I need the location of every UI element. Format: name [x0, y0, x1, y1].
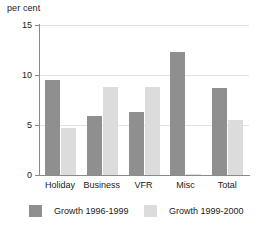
legend-label-series-1: Growth 1996-1999	[54, 206, 129, 216]
x-axis-label-holiday: Holiday	[45, 180, 75, 190]
bar	[87, 116, 102, 175]
x-axis-label-vfr: VFR	[135, 180, 153, 190]
legend-swatch-icon-series-1	[29, 205, 42, 217]
x-axis-label-business: Business	[84, 180, 121, 190]
y-axis-unit-label: per cent	[7, 3, 40, 13]
bar-chart: per cent 051015 HolidayBusinessVFRMiscTo…	[0, 0, 260, 236]
y-tick-label-0: 0	[0, 170, 32, 180]
bar	[228, 120, 243, 175]
legend-label-series-2: Growth 1999-2000	[169, 206, 244, 216]
bar	[103, 87, 118, 175]
x-axis-label-total: Total	[218, 180, 237, 190]
plot-area	[40, 25, 249, 175]
y-tick-label-5: 5	[0, 120, 32, 130]
bar	[186, 174, 201, 175]
bar	[45, 80, 60, 175]
legend: Growth 1996-1999 Growth 1999-2000	[0, 205, 260, 227]
legend-swatch-icon-series-2	[144, 205, 157, 217]
bar	[170, 52, 185, 175]
x-axis-label-misc: Misc	[176, 180, 195, 190]
y-tick-label-10: 10	[0, 70, 32, 80]
bar-group	[126, 25, 168, 175]
bar-group	[167, 25, 209, 175]
bar	[129, 112, 144, 175]
legend-item-growth-1999-2000: Growth 1999-2000	[144, 205, 244, 217]
bar-group	[209, 25, 251, 175]
y-tick-label-15: 15	[0, 20, 32, 30]
bar	[61, 128, 76, 175]
bar-group	[84, 25, 126, 175]
legend-item-growth-1996-1999: Growth 1996-1999	[29, 205, 129, 217]
bar-group	[42, 25, 84, 175]
bar	[145, 87, 160, 175]
bar	[212, 88, 227, 175]
x-axis-line	[39, 175, 250, 176]
